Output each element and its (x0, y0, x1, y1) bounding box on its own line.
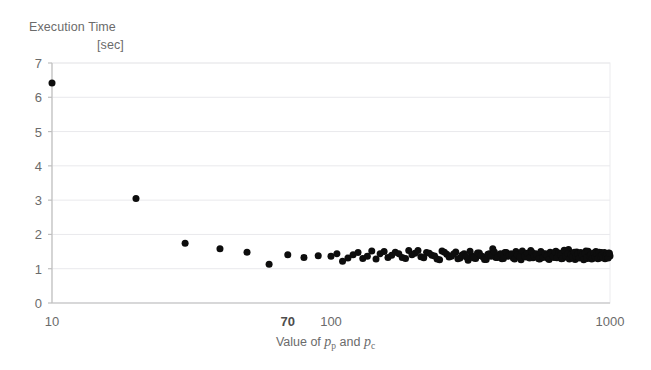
data-point (606, 250, 613, 257)
x-tick-label: 70 (281, 315, 295, 328)
data-point (408, 251, 415, 258)
data-point (333, 250, 340, 257)
data-point (49, 79, 56, 86)
y-tick-label: 5 (20, 126, 42, 139)
data-point (420, 254, 427, 261)
data-point (344, 255, 351, 262)
y-tick-label: 3 (20, 194, 42, 207)
x-axis-var-2: pc (364, 334, 375, 349)
data-point (244, 249, 251, 256)
data-point (467, 248, 474, 255)
y-tick-label: 2 (20, 228, 42, 241)
data-point (402, 255, 409, 262)
data-point (381, 248, 388, 255)
data-point (315, 252, 322, 259)
x-axis-title-conjunction: and (336, 335, 364, 349)
data-point (395, 250, 402, 257)
y-tick-label: 7 (20, 57, 42, 70)
gridlines-group (52, 63, 610, 303)
data-point (284, 251, 291, 258)
data-point (355, 249, 362, 256)
data-point (182, 240, 189, 247)
x-tick-label: 1000 (596, 315, 625, 328)
x-tick-label: 100 (320, 315, 342, 328)
x-tick-label: 10 (45, 315, 59, 328)
data-point (132, 195, 139, 202)
y-tick-label: 0 (20, 297, 42, 310)
x-axis-title: Value of pp and pc (0, 334, 651, 350)
y-tick-label: 6 (20, 91, 42, 104)
data-point (364, 253, 371, 260)
x-axis-var-1-subscript: p (331, 341, 336, 351)
x-axis-var-1: pp (324, 334, 336, 349)
chart-figure: Execution Time [sec] 01234567 1070100100… (0, 0, 651, 370)
data-point (436, 256, 443, 263)
y-tick-label: 1 (20, 263, 42, 276)
data-point (368, 247, 375, 254)
data-point (388, 252, 395, 259)
y-tick-label: 4 (20, 160, 42, 173)
data-point (373, 256, 380, 263)
plot-area-border (52, 63, 610, 303)
axis-lines-group (52, 63, 610, 303)
x-axis-var-2-subscript: c (371, 341, 375, 351)
x-axis-title-prefix: Value of (276, 335, 324, 349)
data-point (414, 247, 421, 254)
data-points-group (49, 79, 614, 267)
data-point (266, 261, 273, 268)
data-point (216, 245, 223, 252)
data-point (300, 254, 307, 261)
